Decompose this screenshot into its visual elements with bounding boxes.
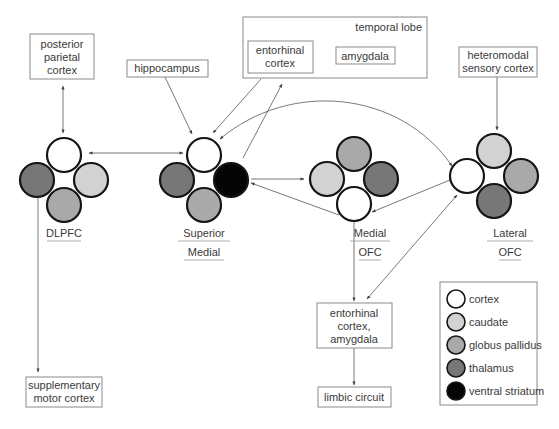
box-text: sensory cortex bbox=[462, 62, 534, 74]
cluster-label: OFC bbox=[358, 246, 381, 258]
box-text: entorhinal bbox=[256, 44, 304, 56]
supplementary-motor-box: supplementary motor cortex bbox=[26, 377, 102, 407]
box-text: limbic circuit bbox=[324, 391, 384, 403]
arrow-temporal-superior bbox=[213, 79, 261, 133]
heteromodal-box: heteromodal sensory cortex bbox=[459, 47, 537, 77]
thalamus-node-icon bbox=[160, 163, 194, 197]
cluster-label: Lateral bbox=[493, 227, 527, 239]
cluster-dlpfc: DLPFC bbox=[20, 138, 108, 241]
limbic-circuit-box: limbic circuit bbox=[318, 387, 391, 407]
connections bbox=[38, 56, 497, 385]
cluster-lateral-ofc: LateralOFC bbox=[450, 134, 538, 260]
globus-pallidus-node-icon bbox=[337, 137, 371, 171]
legend-label: globus pallidus bbox=[469, 339, 542, 351]
legend-label: ventral striatum bbox=[469, 385, 544, 397]
cortex-node-icon bbox=[450, 159, 484, 193]
cluster-label: DLPFC bbox=[46, 227, 82, 239]
arrow-lateral-superior-curve bbox=[220, 101, 452, 166]
box-text: amygdala bbox=[341, 50, 390, 62]
ventral-striatum-node-icon bbox=[214, 163, 248, 197]
cluster-label: Superior bbox=[183, 227, 225, 239]
box-text: posterior bbox=[41, 38, 84, 50]
legend-label: caudate bbox=[469, 316, 508, 328]
globus-pallidus-swatch-icon bbox=[447, 336, 465, 354]
caudate-swatch-icon bbox=[447, 313, 465, 331]
thalamus-node-icon bbox=[477, 184, 511, 218]
thalamus-swatch-icon bbox=[447, 359, 465, 377]
cluster-label: Medial bbox=[188, 246, 220, 258]
box-text: cortex, bbox=[337, 320, 370, 332]
box-text: cortex bbox=[265, 57, 295, 69]
hippocampus-box: hippocampus bbox=[127, 60, 208, 77]
temporal-lobe-box: temporal lobe entorhinal cortex amygdala bbox=[243, 17, 427, 78]
caudate-node-icon bbox=[74, 163, 108, 197]
thalamus-node-icon bbox=[20, 163, 54, 197]
globus-pallidus-node-icon bbox=[504, 159, 538, 193]
entorhinal-amygdala-box: entorhinal cortex, amygdala bbox=[317, 303, 392, 348]
box-text: amygdala bbox=[330, 333, 379, 345]
cluster-label: Medial bbox=[354, 227, 386, 239]
box-text: motor cortex bbox=[33, 392, 95, 404]
box-text: supplementary bbox=[28, 379, 101, 391]
amygdala-box: amygdala bbox=[336, 47, 395, 64]
box-text: parietal bbox=[44, 51, 80, 63]
cortex-node-icon bbox=[187, 138, 221, 172]
globus-pallidus-node-icon bbox=[47, 188, 81, 222]
box-text: cortex bbox=[47, 64, 77, 76]
frontal-subcortical-circuits-diagram: posterior parietal cortex hippocampus te… bbox=[0, 0, 559, 429]
temporal-lobe-title: temporal lobe bbox=[355, 21, 422, 33]
legend-label: thalamus bbox=[469, 362, 514, 374]
cluster-label: OFC bbox=[498, 246, 521, 258]
box-text: entorhinal bbox=[330, 307, 378, 319]
ventral-striatum-swatch-icon bbox=[447, 382, 465, 400]
cortex-swatch-icon bbox=[447, 290, 465, 308]
arrow-striatum-temporal bbox=[243, 84, 282, 158]
thalamus-node-icon bbox=[364, 162, 398, 196]
entorhinal-cortex-box: entorhinal cortex bbox=[248, 41, 313, 73]
cortex-node-icon bbox=[47, 138, 81, 172]
arrow-hippocampus-superior bbox=[165, 77, 192, 134]
globus-pallidus-node-icon bbox=[187, 188, 221, 222]
legend: cortexcaudateglobus pallidusthalamusvent… bbox=[440, 282, 544, 405]
caudate-node-icon bbox=[477, 134, 511, 168]
cortex-node-icon bbox=[337, 187, 371, 221]
posterior-parietal-box: posterior parietal cortex bbox=[30, 34, 94, 79]
box-text: hippocampus bbox=[134, 62, 200, 74]
legend-label: cortex bbox=[469, 293, 499, 305]
cluster-superior-medial: SuperiorMedial bbox=[160, 138, 248, 260]
box-text: heteromodal bbox=[467, 49, 528, 61]
caudate-node-icon bbox=[310, 162, 344, 196]
